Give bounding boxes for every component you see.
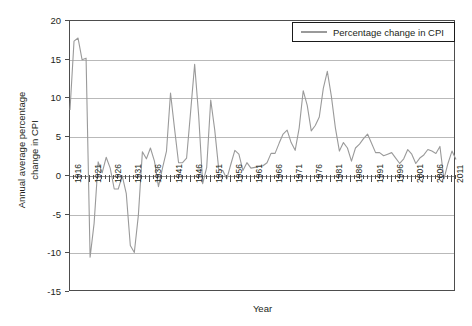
x-tick-label: 1926	[113, 164, 123, 183]
y-tick-mark	[65, 136, 69, 137]
y-tick-label: -15	[31, 286, 61, 297]
plot-area	[69, 20, 455, 291]
y-tick-label: -10	[31, 247, 61, 258]
x-tick-label: 1956	[234, 164, 244, 183]
x-tick-mark	[206, 175, 207, 179]
x-tick-mark	[226, 175, 227, 179]
y-tick-label: 15	[31, 53, 61, 64]
y-tick-label: 20	[31, 15, 61, 26]
x-tick-mark	[427, 175, 428, 179]
chart-legend: Percentage change in CPI	[292, 22, 455, 42]
x-tick-label: 2001	[415, 164, 425, 183]
x-tick-mark	[346, 175, 347, 179]
x-axis-title: Year	[69, 303, 456, 314]
y-tick-label: -5	[31, 208, 61, 219]
y-tick-mark	[65, 291, 69, 292]
x-tick-label: 1971	[294, 164, 304, 183]
x-tick-label: 1951	[214, 164, 224, 183]
x-tick-label: 1991	[375, 164, 385, 183]
y-tick-mark	[65, 59, 69, 60]
x-tick-mark	[367, 175, 368, 179]
y-tick-mark	[65, 97, 69, 98]
x-tick-label: 2006	[435, 164, 445, 183]
x-tick-mark	[387, 175, 388, 179]
x-tick-label: 1931	[133, 164, 143, 183]
x-tick-mark	[246, 175, 247, 179]
x-tick-mark	[371, 175, 372, 182]
x-tick-mark	[431, 175, 432, 182]
x-tick-mark	[129, 175, 130, 182]
x-tick-mark	[391, 175, 392, 182]
x-tick-mark	[230, 175, 231, 182]
x-tick-label: 1921	[93, 164, 103, 183]
x-tick-mark	[145, 175, 146, 179]
series-percentage-change-in-cpi	[70, 21, 456, 292]
x-tick-mark	[186, 175, 187, 179]
x-tick-mark	[85, 175, 86, 179]
y-tick-mark	[65, 20, 69, 21]
x-tick-mark	[250, 175, 251, 182]
x-tick-mark	[109, 175, 110, 182]
x-tick-label: 1981	[334, 164, 344, 183]
x-tick-mark	[330, 175, 331, 182]
x-tick-mark	[190, 175, 191, 182]
x-tick-label: 1996	[395, 164, 405, 183]
x-tick-mark	[350, 175, 351, 182]
x-tick-mark	[166, 175, 167, 179]
x-tick-mark	[266, 175, 267, 179]
x-tick-label: 1976	[314, 164, 324, 183]
x-tick-label: 2011	[455, 165, 465, 183]
x-tick-mark	[125, 175, 126, 179]
y-axis-title-line1: Annual average percentage	[16, 92, 27, 209]
x-tick-mark	[105, 175, 106, 179]
x-tick-label: 1941	[174, 164, 184, 183]
y-tick-label: 10	[31, 92, 61, 103]
x-tick-mark	[411, 175, 412, 182]
x-tick-mark	[451, 175, 452, 182]
chart-root: Annual average percentage change in CPI …	[0, 0, 472, 326]
legend-label: Percentage change in CPI	[333, 27, 444, 38]
x-tick-mark	[170, 175, 171, 182]
x-tick-mark	[447, 175, 448, 179]
x-tick-label: 1961	[254, 164, 264, 183]
x-tick-mark	[306, 175, 307, 179]
x-tick-mark	[270, 175, 271, 182]
y-axis-title-line2: change in CPI	[28, 92, 41, 209]
y-tick-mark	[65, 252, 69, 253]
x-tick-mark	[310, 175, 311, 182]
y-tick-mark	[65, 214, 69, 215]
x-tick-label: 1936	[153, 164, 163, 183]
x-tick-mark	[407, 175, 408, 179]
x-tick-mark	[149, 175, 150, 182]
legend-line-swatch	[301, 31, 327, 33]
y-tick-label: 5	[31, 131, 61, 142]
x-tick-label: 1986	[354, 164, 364, 183]
x-tick-mark	[89, 175, 90, 182]
y-tick-label: 0	[31, 169, 61, 180]
x-tick-mark	[210, 175, 211, 182]
x-tick-mark	[326, 175, 327, 179]
x-tick-label: 1946	[194, 164, 204, 183]
x-tick-mark	[290, 175, 291, 182]
x-tick-label: 1916	[73, 164, 83, 183]
x-tick-mark	[286, 175, 287, 179]
x-tick-mark	[69, 175, 70, 182]
x-tick-label: 1966	[274, 164, 284, 183]
series-line	[70, 38, 456, 257]
